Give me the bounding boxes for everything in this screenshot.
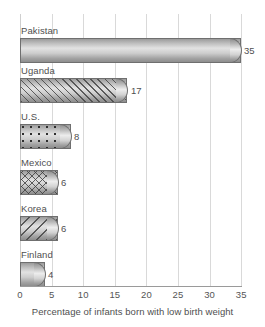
plot-area: Pakistan 35 Uganda 17 U.S. 8	[0, 0, 265, 327]
bar-cap-us	[60, 124, 72, 149]
bar-cap-korea	[47, 216, 59, 241]
bar-pattern-solid	[21, 39, 240, 62]
gridline-35	[241, 14, 242, 286]
value-label-pakistan: 35	[244, 45, 255, 56]
x-tick-label-10: 10	[72, 289, 94, 300]
bar-pakistan[interactable]	[20, 38, 241, 63]
bar-cap-uganda	[116, 78, 128, 103]
value-label-us: 8	[74, 131, 79, 142]
category-label-finland: Finland	[21, 249, 53, 260]
bar-cap-finland	[34, 262, 46, 287]
value-label-uganda: 17	[131, 85, 142, 96]
bar-finland[interactable]	[20, 262, 45, 287]
x-axis-line	[20, 286, 242, 287]
x-tick-label-0: 0	[9, 289, 31, 300]
bar-pattern-diagonal-hatch-up	[21, 79, 126, 102]
category-label-uganda: Uganda	[21, 65, 55, 76]
x-tick-label-20: 20	[135, 289, 157, 300]
x-tick-label-5: 5	[41, 289, 63, 300]
bar-uganda[interactable]	[20, 78, 127, 103]
x-tick-label-30: 30	[199, 289, 221, 300]
x-axis-title: Percentage of infants born with low birt…	[0, 306, 265, 317]
bar-cap-pakistan	[230, 38, 242, 63]
category-label-korea: Korea	[21, 203, 47, 214]
x-tick-label-25: 25	[167, 289, 189, 300]
value-label-mexico: 6	[61, 177, 66, 188]
category-label-us: U.S.	[21, 111, 40, 122]
value-label-korea: 6	[61, 223, 66, 234]
category-label-mexico: Mexico	[21, 157, 52, 168]
bar-cap-mexico	[47, 170, 59, 195]
x-tick-label-15: 15	[104, 289, 126, 300]
value-label-finland: 4	[48, 269, 53, 280]
bar-us[interactable]	[20, 124, 71, 149]
bar-mexico[interactable]	[20, 170, 58, 195]
bar-chart: Pakistan 35 Uganda 17 U.S. 8	[0, 0, 265, 327]
x-tick-label-35: 35	[230, 289, 252, 300]
bar-korea[interactable]	[20, 216, 58, 241]
category-label-pakistan: Pakistan	[21, 25, 58, 36]
